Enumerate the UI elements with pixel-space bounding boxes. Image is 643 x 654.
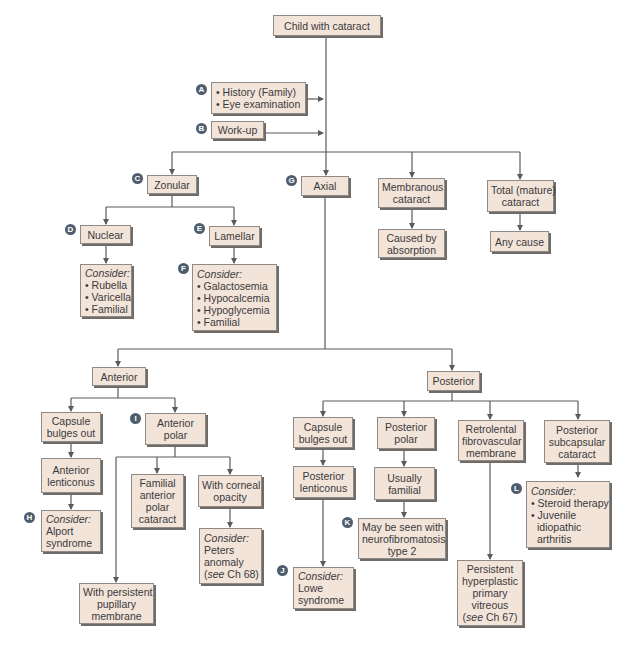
marker-a-icon: A [196,84,207,95]
lamellar-consider-node: Consider: • Galactosemia • Hypocalcemia … [192,264,277,331]
consider-item-continued: idiopathic [531,521,581,533]
consider-title: Consider: [46,513,91,525]
usually-familial-node: Usually familial [374,467,435,500]
marker-e-icon: E [194,223,205,234]
lamellar-node: Lamellar [209,226,260,246]
subcapsular-line: Posterior [548,424,606,436]
lowe-consider-node: Consider: Lowe syndrome [293,567,354,609]
subcapsular-node: Posterior subcapsular cataract [544,420,610,463]
total-cause-label: Any cause [494,236,545,248]
total-line: cataract [491,196,550,208]
consider-item: • Familial [197,316,240,328]
familial-line: polar [135,501,180,513]
lenticonus-line: Anterior [45,464,97,476]
marker-i-icon: I [130,413,141,424]
zonular-label: Zonular [151,179,193,191]
phpv-line: hyperplastic [461,575,519,587]
marker-f-icon: F [178,263,189,274]
nuclear-consider-node: Consider: • Rubella • Varicella • Famili… [80,264,132,317]
peters-consider-node: Consider: Peters anomaly (see Ch 68) [199,528,262,584]
root-label: Child with cataract [277,20,377,32]
step-b-label: Work-up [215,124,260,136]
membranous-cause-line: Caused by [382,232,441,244]
step-a-line: • History (Family) [216,86,296,98]
ref-chapter: Ch 68) [224,568,258,580]
phpv-line: Persistent [461,563,519,575]
polar-line: polar [149,429,202,441]
marker-j-icon: J [277,565,288,576]
consider-item: • Hypoglycemia [197,304,270,316]
familial-anterior-polar-node: Familial anterior polar cataract [131,474,184,528]
membranous-cause-line: absorption [382,244,441,256]
total-line: Total (mature) [491,184,550,196]
nf2-node: May be seen with neurofibromatosis type … [358,518,446,559]
consider-line: Alport [46,525,73,537]
consider-item: • Galactosemia [197,280,268,292]
capsule-line: bulges out [297,433,349,445]
subcapsular-line: cataract [548,448,606,460]
total-node: Total (mature) cataract [487,180,554,212]
step-a-line: • Eye examination [216,98,300,110]
posterior-label: Posterior [431,375,476,387]
pupillary-membrane-node: With persistent pupillary membrane [79,583,154,624]
marker-d-icon: D [65,224,76,235]
retrolental-line: Retrolental [462,423,520,435]
membranous-node: Membranous cataract [378,178,445,208]
total-cause-node: Any cause [490,231,549,252]
consider-item: • Juvenile [531,509,576,521]
subcapsular-consider-node: Consider: • Steroid therapy • Juvenile i… [526,481,610,548]
anterior-lenticonus-node: Anterior lenticonus [41,458,101,493]
consider-line: Lowe [298,582,323,594]
capsule-line: bulges out [45,427,97,439]
pupillary-line: membrane [83,610,150,622]
axial-node: Axial [301,176,349,196]
ref-chapter: Ch 67) [483,611,517,623]
phpv-line: primary [461,587,519,599]
phpv-line: vitreous [461,599,519,611]
marker-l-icon: L [511,483,522,494]
nuclear-label: Nuclear [84,229,127,241]
polar-line: Posterior [381,421,431,433]
lamellar-label: Lamellar [213,230,256,242]
nf2-line: May be seen with [362,521,442,533]
zonular-node: Zonular [147,175,197,194]
lenticonus-line: Posterior [297,470,350,482]
pupillary-line: With persistent [83,586,150,598]
capsule-line: Capsule [297,421,349,433]
corneal-line: opacity [202,491,258,503]
familial-line: familial [378,484,431,496]
posterior-node: Posterior [427,371,480,391]
consider-title: Consider: [204,532,249,544]
membranous-line: cataract [382,193,441,205]
root-node: Child with cataract [273,15,381,36]
ref-see: see [208,568,225,580]
consider-item: • Varicella [85,291,131,303]
retrolental-line: membrane [462,447,520,459]
corneal-opacity-node: With corneal opacity [198,475,262,507]
familial-line: Familial [135,477,180,489]
anterior-capsule-node: Capsule bulges out [41,412,101,442]
consider-title: Consider: [531,485,576,497]
anterior-node: Anterior [92,367,146,386]
axial-label: Axial [305,180,345,192]
phpv-node: Persistent hyperplastic primary vitreous… [457,560,523,626]
familial-line: cataract [135,513,180,525]
step-b-workup: Work-up [211,121,264,139]
marker-b-icon: B [196,123,207,134]
anterior-label: Anterior [96,371,142,383]
consider-line: syndrome [46,537,92,549]
consider-item-continued: arthritis [531,533,571,545]
consider-title: Consider: [85,267,130,279]
consider-line: anomaly [204,556,244,568]
marker-c-icon: C [132,173,143,184]
consider-title: Consider: [298,570,343,582]
familial-line: anterior [135,489,180,501]
posterior-polar-node: Posterior polar [377,417,435,449]
consider-title: Consider: [197,268,242,280]
polar-line: Anterior [149,417,202,429]
lenticonus-line: lenticonus [45,476,97,488]
marker-h-icon: H [24,512,35,523]
consider-line: syndrome [298,594,344,606]
chapter-ref: (see Ch 67) [461,611,519,623]
polar-line: polar [381,433,431,445]
